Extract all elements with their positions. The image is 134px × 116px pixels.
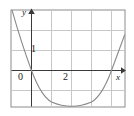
y-axis-label: y (22, 8, 26, 17)
x-tick-label-2: 2 (63, 72, 68, 82)
y-tick-label-1: 1 (31, 44, 36, 54)
plot-frame (11, 10, 125, 107)
x-axis-label: x (116, 73, 120, 82)
origin-label: 0 (18, 72, 23, 82)
parabola-figure: y x 0 1 2 (0, 0, 134, 116)
coordinate-plot (0, 0, 134, 116)
